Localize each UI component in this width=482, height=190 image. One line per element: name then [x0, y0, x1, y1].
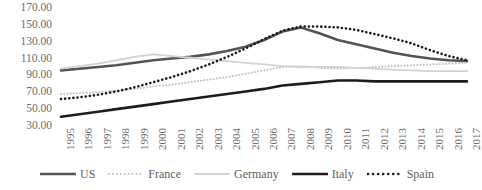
y-tick-label: 90.00	[26, 69, 52, 81]
series-paths	[61, 27, 467, 117]
plot-area	[58, 8, 470, 126]
x-tick-label: 2016	[453, 128, 464, 150]
y-tick-label: 130.00	[20, 36, 52, 48]
chart-legend: USFranceGermanyItalySpain	[0, 164, 474, 184]
legend-swatch-italy-icon	[292, 169, 328, 179]
legend-label: France	[148, 168, 181, 180]
legend-item-germany[interactable]: Germany	[194, 168, 279, 180]
x-tick-label: 2002	[194, 128, 205, 150]
y-tick-label: 30.00	[26, 120, 52, 132]
x-tick-label: 2017	[471, 128, 482, 150]
x-tick-label: 2009	[323, 128, 334, 150]
x-tick-label: 2007	[286, 128, 297, 150]
x-tick-label: 2004	[231, 128, 242, 150]
x-tick-label: 1997	[102, 128, 113, 150]
legend-label: Spain	[407, 168, 434, 180]
x-tick-label: 2014	[416, 128, 427, 150]
legend-swatch-spain-icon	[367, 169, 403, 179]
legend-item-italy[interactable]: Italy	[292, 168, 354, 180]
y-tick-label: 110.00	[21, 53, 52, 65]
x-tick-label: 2011	[360, 128, 371, 150]
legend-label: Italy	[332, 168, 354, 180]
x-tick-label: 2000	[157, 128, 168, 150]
plot-svg	[58, 8, 470, 126]
x-tick-label: 2003	[213, 128, 224, 150]
series-line-italy	[61, 80, 467, 116]
x-tick-label: 1999	[139, 128, 150, 150]
legend-label: US	[80, 168, 95, 180]
legend-swatch-germany-icon	[194, 169, 230, 179]
y-tick-label: 70.00	[26, 86, 52, 98]
x-tick-label: 2010	[342, 128, 353, 150]
x-tick-label: 1996	[83, 128, 94, 150]
x-tick-label: 2013	[397, 128, 408, 150]
y-axis-labels: 30.0050.0070.0090.00110.00130.00150.0017…	[0, 0, 56, 130]
y-tick-label: 170.00	[20, 2, 52, 14]
y-tick-label: 50.00	[26, 103, 52, 115]
legend-swatch-us-icon	[40, 169, 76, 179]
x-tick-label: 2005	[250, 128, 261, 150]
x-tick-label: 1998	[120, 128, 131, 150]
x-tick-label: 2008	[305, 128, 316, 150]
legend-label: Germany	[234, 168, 279, 180]
legend-item-france[interactable]: France	[108, 168, 181, 180]
x-tick-label: 2006	[268, 128, 279, 150]
legend-swatch-france-icon	[108, 169, 144, 179]
legend-item-spain[interactable]: Spain	[367, 168, 434, 180]
legend-item-us[interactable]: US	[40, 168, 95, 180]
series-line-germany	[61, 54, 467, 71]
x-tick-label: 1995	[65, 128, 76, 150]
x-tick-label: 2012	[379, 128, 390, 150]
x-tick-label: 2015	[434, 128, 445, 150]
y-tick-label: 150.00	[20, 19, 52, 31]
x-axis-labels: 1995199619971998199920002001200220032004…	[58, 128, 470, 162]
x-tick-label: 2001	[176, 128, 187, 150]
